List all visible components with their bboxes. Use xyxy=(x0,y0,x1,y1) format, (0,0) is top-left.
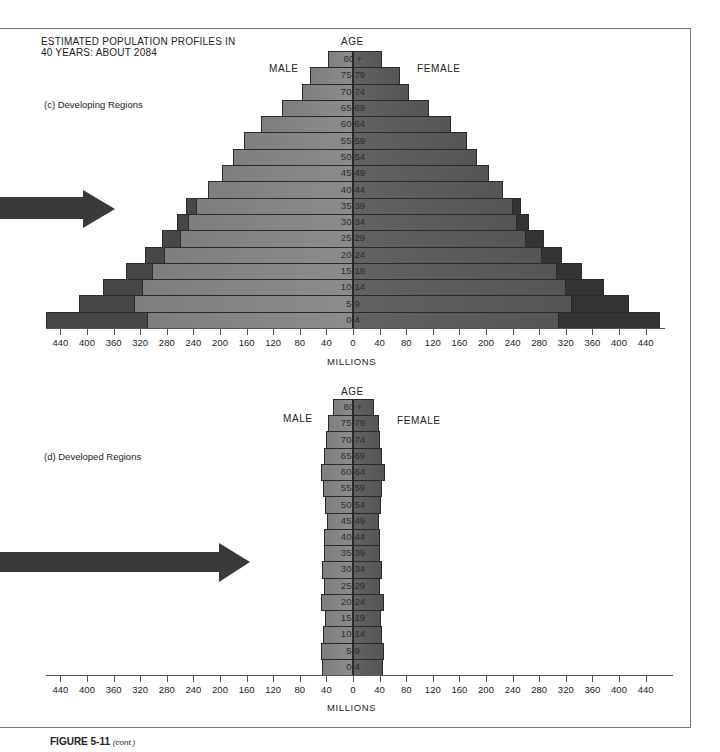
x-axis-tick xyxy=(406,675,407,682)
x-axis-tick-label: 400 xyxy=(72,684,102,695)
x-axis-tick xyxy=(193,675,194,682)
figure-note: (cont.) xyxy=(113,738,136,747)
x-axis-tick-label: 200 xyxy=(471,684,501,695)
x-axis-tick xyxy=(300,675,301,682)
x-axis-tick xyxy=(220,675,221,682)
x-axis-tick xyxy=(513,675,514,682)
x-axis-tick xyxy=(167,675,168,682)
figure-number: FIGURE 5-11 xyxy=(50,736,110,747)
x-axis-tick xyxy=(646,675,647,682)
x-axis-tick xyxy=(486,675,487,682)
x-axis-tick-label: 160 xyxy=(444,684,474,695)
x-axis-tick-label: 240 xyxy=(498,684,528,695)
figure-caption: FIGURE 5-11 (cont.) xyxy=(50,736,135,747)
x-axis-tick-label: 160 xyxy=(232,684,262,695)
x-axis-tick-label: 360 xyxy=(577,684,607,695)
x-axis-tick-label: 440 xyxy=(45,684,75,695)
arrow-right-icon-developed xyxy=(0,542,255,584)
x-axis-tick xyxy=(433,675,434,682)
x-axis-tick-label: 80 xyxy=(391,684,421,695)
x-axis-tick xyxy=(60,675,61,682)
x-axis-tick xyxy=(326,675,327,682)
developed-regions-pyramid: 80 +75-7970-7465-6960-6455-5950-5445-494… xyxy=(0,0,720,720)
center-divider xyxy=(353,399,354,675)
frame-bottom-rule xyxy=(0,727,691,728)
x-axis-tick-label: 40 xyxy=(311,684,341,695)
x-axis-tick-label: 240 xyxy=(178,684,208,695)
x-axis-tick xyxy=(459,675,460,682)
x-axis-tick-label: 360 xyxy=(99,684,129,695)
x-axis-tick xyxy=(87,675,88,682)
x-axis-tick-label: 280 xyxy=(524,684,554,695)
x-axis-tick-label: 320 xyxy=(125,684,155,695)
x-axis-tick xyxy=(566,675,567,682)
x-axis-tick xyxy=(114,675,115,682)
x-axis-tick-label: 120 xyxy=(418,684,448,695)
x-axis-tick xyxy=(273,675,274,682)
x-axis-tick xyxy=(592,675,593,682)
x-axis-tick-label: 280 xyxy=(152,684,182,695)
x-axis-tick xyxy=(380,675,381,682)
x-axis-tick-label: 120 xyxy=(258,684,288,695)
x-axis-tick xyxy=(619,675,620,682)
x-axis-tick xyxy=(140,675,141,682)
x-axis-tick-label: 40 xyxy=(365,684,395,695)
x-axis-tick xyxy=(353,675,354,682)
x-axis-tick-label: 400 xyxy=(604,684,634,695)
x-axis-tick xyxy=(539,675,540,682)
x-axis-tick-label: 0 xyxy=(338,684,368,695)
x-axis-tick-label: 320 xyxy=(551,684,581,695)
x-axis-tick-label: 80 xyxy=(285,684,315,695)
x-axis-tick-label: 200 xyxy=(205,684,235,695)
x-axis-tick xyxy=(247,675,248,682)
x-axis-tick-label: 440 xyxy=(631,684,661,695)
